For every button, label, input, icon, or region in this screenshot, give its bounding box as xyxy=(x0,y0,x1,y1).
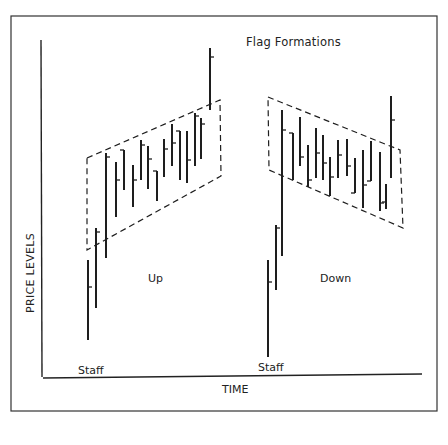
price-bar xyxy=(347,139,351,176)
outer-frame xyxy=(11,16,437,411)
price-bar xyxy=(308,145,312,187)
chart-title: Flag Formations xyxy=(246,35,341,49)
price-bar xyxy=(88,260,92,340)
price-bar xyxy=(164,139,168,177)
price-bar xyxy=(201,118,205,159)
price-bar xyxy=(300,117,304,166)
x-axis-label: TIME xyxy=(222,383,248,396)
price-bar xyxy=(153,171,157,201)
price-bar xyxy=(148,146,152,189)
price-bar xyxy=(210,48,214,110)
price-bar xyxy=(367,141,371,181)
price-bar xyxy=(120,150,124,190)
price-bar xyxy=(141,140,145,180)
price-bar xyxy=(133,165,137,207)
price-bar xyxy=(338,140,342,178)
price-bar xyxy=(330,157,334,196)
price-bar xyxy=(316,128,320,178)
price-bar xyxy=(187,131,191,183)
flag-formations-diagram xyxy=(0,0,448,445)
y-axis-label: PRICE LEVELS xyxy=(24,233,37,313)
up-label: Up xyxy=(148,272,163,285)
price-bar xyxy=(116,162,120,217)
price-bar xyxy=(276,225,280,290)
flag-channel xyxy=(268,97,403,228)
price-bar xyxy=(195,113,199,166)
price-bar xyxy=(289,133,293,180)
down-label: Down xyxy=(320,272,351,285)
price-bar xyxy=(382,184,386,209)
price-bar xyxy=(351,158,355,193)
staff-label-right: Staff xyxy=(258,361,284,374)
price-bar xyxy=(282,110,286,256)
price-bar xyxy=(96,228,100,308)
y-axis xyxy=(41,40,42,377)
price-bar xyxy=(323,135,327,180)
price-bar xyxy=(391,96,395,178)
price-bar xyxy=(106,153,110,258)
down-flag-panel xyxy=(268,96,403,357)
up-flag-panel xyxy=(87,48,221,340)
price-bar xyxy=(363,150,367,208)
price-bar xyxy=(268,260,272,357)
price-bar xyxy=(172,124,176,166)
price-bar xyxy=(176,131,180,180)
staff-label-left: Staff xyxy=(78,364,104,377)
